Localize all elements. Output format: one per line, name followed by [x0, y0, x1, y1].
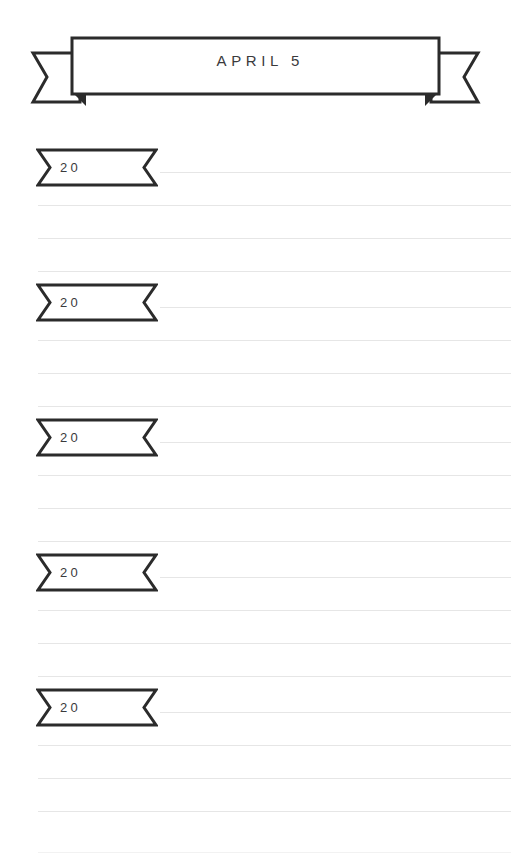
writing-line[interactable]: [38, 205, 511, 206]
writing-line[interactable]: [38, 778, 511, 779]
footer-rule: [38, 852, 511, 853]
year-label[interactable]: 20: [36, 553, 158, 592]
writing-line[interactable]: [160, 172, 511, 173]
writing-line[interactable]: [38, 406, 511, 407]
writing-line[interactable]: [38, 373, 511, 374]
writing-line[interactable]: [38, 610, 511, 611]
writing-line[interactable]: [38, 811, 511, 812]
writing-line[interactable]: [38, 238, 511, 239]
year-label[interactable]: 20: [36, 418, 158, 457]
writing-line[interactable]: [38, 271, 511, 272]
writing-line[interactable]: [38, 541, 511, 542]
writing-line[interactable]: [160, 712, 511, 713]
writing-line[interactable]: [160, 442, 511, 443]
year-label[interactable]: 20: [36, 688, 158, 727]
year-label[interactable]: 20: [36, 283, 158, 322]
writing-line[interactable]: [38, 340, 511, 341]
writing-line[interactable]: [38, 508, 511, 509]
writing-line[interactable]: [38, 745, 511, 746]
year-label[interactable]: 20: [36, 148, 158, 187]
journal-page: APRIL 5 2020202020: [0, 0, 511, 860]
page-title: APRIL 5: [78, 37, 438, 83]
writing-line[interactable]: [38, 475, 511, 476]
writing-line[interactable]: [160, 577, 511, 578]
writing-line[interactable]: [38, 676, 511, 677]
writing-line[interactable]: [38, 643, 511, 644]
writing-line[interactable]: [160, 307, 511, 308]
